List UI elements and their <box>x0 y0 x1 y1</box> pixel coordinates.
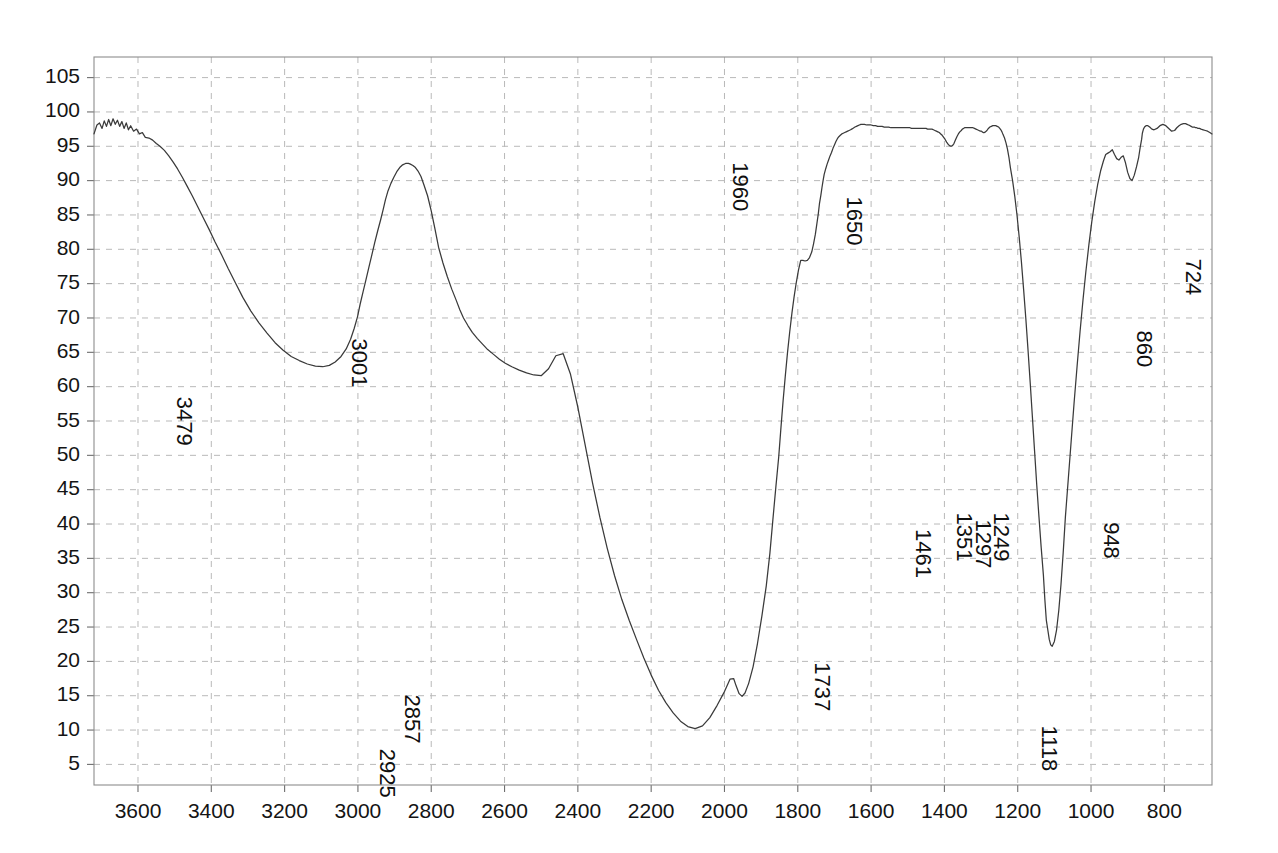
x-axis-tick-label: 1400 <box>921 799 968 822</box>
y-axis-tick-label: 40 <box>57 511 80 534</box>
y-axis-tick-label: 75 <box>57 270 80 293</box>
y-axis-tick-label: 10 <box>57 717 80 740</box>
peak-label-1960: 1960 <box>728 162 753 211</box>
peak-label-3479: 3479 <box>172 397 197 446</box>
y-axis-tick-label: 60 <box>57 373 80 396</box>
y-axis-tick-label: 30 <box>57 579 80 602</box>
peak-label-1737: 1737 <box>810 662 835 711</box>
y-axis-tick-label: 20 <box>57 648 80 671</box>
peak-label-1650: 1650 <box>842 197 867 246</box>
y-axis-tick-label: 55 <box>57 408 80 431</box>
y-axis-tick-label: 45 <box>57 476 80 499</box>
y-axis-tick-label: 70 <box>57 305 80 328</box>
y-axis-tick-label: 50 <box>57 442 80 465</box>
y-axis-tick-label: 35 <box>57 545 80 568</box>
peak-label-724: 724 <box>1181 258 1206 295</box>
peak-label-948: 948 <box>1099 522 1124 559</box>
y-axis-tick-label: 85 <box>57 202 80 225</box>
x-axis-tick-labels: 3600340032003000280026002400220020001800… <box>115 799 1182 822</box>
peak-label-1118: 1118 <box>1037 725 1062 771</box>
x-axis-tick-label: 2400 <box>554 799 601 822</box>
y-axis-tick-label: 65 <box>57 339 80 362</box>
axis-tick-marks <box>87 78 1164 792</box>
x-axis-tick-label: 3400 <box>188 799 235 822</box>
y-axis-tick-label: 95 <box>57 133 80 156</box>
x-axis-tick-label: 800 <box>1147 799 1182 822</box>
x-axis-tick-label: 1200 <box>994 799 1041 822</box>
peak-label-1249: 1249 <box>989 513 1014 562</box>
x-axis-tick-label: 3600 <box>115 799 162 822</box>
spectrum-trace <box>94 119 1212 729</box>
grid-lines <box>94 57 1212 785</box>
y-axis-tick-label: 100 <box>45 98 80 121</box>
peak-label-2925: 2925 <box>375 749 400 798</box>
peak-label-860: 860 <box>1132 331 1157 368</box>
x-axis-tick-label: 1000 <box>1068 799 1115 822</box>
spectrum-plot-svg: 5101520253035404550556065707580859095100… <box>0 0 1278 853</box>
y-axis-tick-label: 80 <box>57 236 80 259</box>
y-axis-tick-label: 25 <box>57 614 80 637</box>
y-axis-tick-label: 90 <box>57 167 80 190</box>
x-axis-tick-label: 1800 <box>774 799 821 822</box>
peak-label-2857: 2857 <box>400 695 425 744</box>
y-axis-tick-label: 105 <box>45 64 80 87</box>
y-axis-tick-label: 15 <box>57 682 80 705</box>
x-axis-tick-label: 2800 <box>408 799 455 822</box>
peak-annotations: 3479300129252857196016501737146113511297… <box>172 162 1207 797</box>
peak-label-1461: 1461 <box>911 529 936 578</box>
y-axis-tick-label: 5 <box>68 751 80 774</box>
x-axis-tick-label: 2200 <box>628 799 675 822</box>
x-axis-tick-label: 2600 <box>481 799 528 822</box>
y-axis-tick-labels: 5101520253035404550556065707580859095100… <box>45 64 80 774</box>
ir-spectrum-chart: 5101520253035404550556065707580859095100… <box>0 0 1278 853</box>
x-axis-tick-label: 3200 <box>261 799 308 822</box>
peak-label-3001: 3001 <box>347 339 372 388</box>
x-axis-tick-label: 3000 <box>335 799 382 822</box>
x-axis-tick-label: 1600 <box>848 799 895 822</box>
x-axis-tick-label: 2000 <box>701 799 748 822</box>
